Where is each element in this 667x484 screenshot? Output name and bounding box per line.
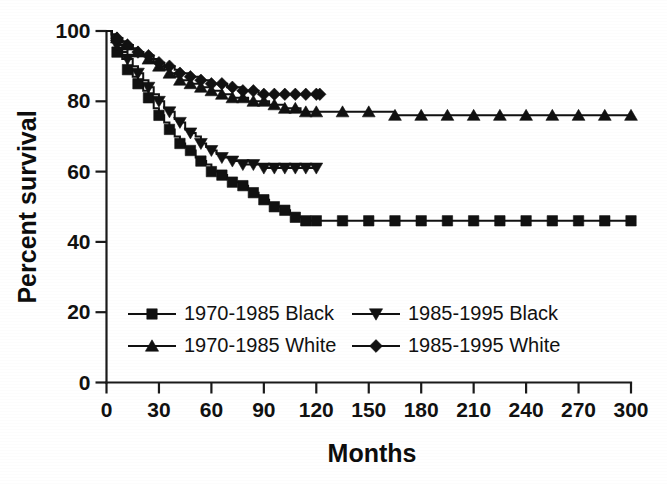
chart-legend: 1970-1985 Black1985-1995 Black1970-1985 … [128, 302, 560, 356]
series-marker [154, 110, 164, 120]
series-marker [442, 216, 452, 226]
y-axis-tick-label: 40 [67, 230, 90, 253]
y-axis-ticks [96, 31, 107, 383]
legend-entry: 1970-1985 White [128, 334, 336, 356]
x-axis-tick-label: 60 [200, 398, 223, 421]
series-marker [390, 216, 400, 226]
series-marker [573, 216, 583, 226]
survival-chart-figure: 020406080100 030609012015018021024027030… [0, 0, 667, 484]
series-marker [175, 138, 185, 148]
legend-label: 1970-1985 White [184, 334, 336, 356]
legend-label: 1985-1995 White [408, 334, 560, 356]
x-axis-tick-labels: 0306090120150180210240270300 [101, 398, 649, 421]
x-axis-tick-label: 270 [561, 398, 596, 421]
series-marker [206, 166, 216, 176]
series-marker [217, 170, 227, 180]
y-axis-tick-label: 20 [67, 300, 90, 323]
series-marker [547, 216, 557, 226]
x-axis-tick-label: 240 [509, 398, 544, 421]
legend-entry: 1985-1995 Black [352, 302, 559, 324]
series-marker [337, 216, 347, 226]
legend-label: 1985-1995 Black [408, 302, 559, 324]
y-axis-title: Percent survival [13, 110, 41, 303]
data-series-group [107, 31, 638, 226]
series-marker [311, 216, 321, 226]
series-marker [248, 187, 258, 197]
series-marker [600, 216, 610, 226]
series-marker [269, 202, 279, 212]
series-marker [196, 156, 206, 166]
legend-label: 1970-1985 Black [184, 302, 335, 324]
series-marker [133, 79, 143, 89]
kaplan-meier-chart: 020406080100 030609012015018021024027030… [0, 0, 667, 484]
y-axis-tick-label: 100 [55, 19, 90, 42]
x-axis-ticks [107, 383, 632, 394]
series-marker [280, 205, 290, 215]
series-marker [290, 212, 300, 222]
y-axis-tick-label: 80 [67, 89, 90, 112]
y-axis-tick-label: 60 [67, 160, 90, 183]
x-axis-tick-label: 90 [252, 398, 275, 421]
series-marker [143, 93, 153, 103]
series-marker [185, 145, 195, 155]
y-axis-tick-label: 0 [79, 371, 91, 394]
x-axis-title: Months [328, 439, 417, 467]
legend-marker-diamond-icon [370, 340, 383, 353]
series-marker [495, 216, 505, 226]
x-axis-tick-label: 120 [299, 398, 334, 421]
x-axis-tick-label: 150 [351, 398, 386, 421]
series-marker [227, 177, 237, 187]
y-axis-tick-labels: 020406080100 [55, 19, 90, 394]
series-marker [416, 216, 426, 226]
x-axis-tick-label: 30 [147, 398, 170, 421]
legend-marker-square-icon [147, 309, 157, 319]
legend-entry: 1970-1985 Black [128, 302, 335, 324]
series-marker [301, 216, 311, 226]
series-marker [122, 64, 132, 74]
series-marker [259, 195, 269, 205]
x-axis-tick-label: 0 [101, 398, 113, 421]
series-marker [164, 124, 174, 134]
legend-entry: 1985-1995 White [352, 334, 560, 356]
series-marker [364, 216, 374, 226]
series-marker [521, 216, 531, 226]
x-axis-tick-label: 300 [613, 398, 648, 421]
x-axis-tick-label: 210 [456, 398, 491, 421]
series-marker [238, 180, 248, 190]
x-axis-tick-label: 180 [404, 398, 439, 421]
series-marker [626, 216, 636, 226]
series-marker [468, 216, 478, 226]
